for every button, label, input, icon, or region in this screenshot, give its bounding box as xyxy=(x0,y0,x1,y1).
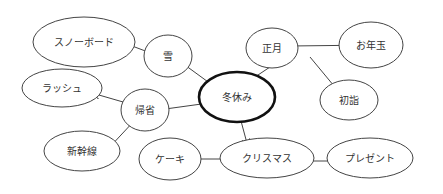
nodes-layer: 冬休み雪スノーボード正月お年玉初詣ラッシュ帰省新幹線ケーキクリスマスプレゼント xyxy=(22,17,413,180)
node-label: お年玉 xyxy=(356,39,386,51)
node-label: 新幹線 xyxy=(67,145,97,157)
node-label: 雪 xyxy=(163,51,173,62)
node-label: プレゼント xyxy=(345,153,395,164)
node-yuki: 雪 xyxy=(144,35,192,77)
node-shogatsu: 正月 xyxy=(246,28,298,68)
node-label: ラッシュ xyxy=(42,83,82,94)
node-rush: ラッシュ xyxy=(22,69,102,107)
node-otoshidama: お年玉 xyxy=(339,22,403,68)
node-christmas: クリスマス xyxy=(220,138,314,178)
node-label: 初詣 xyxy=(339,94,359,106)
node-label: スノーボード xyxy=(54,37,114,48)
node-label: クリスマス xyxy=(242,153,292,164)
node-present: プレゼント xyxy=(327,138,413,178)
node-cake: ケーキ xyxy=(139,138,201,180)
node-hatsumode: 初詣 xyxy=(320,80,378,120)
node-shinkansen: 新幹線 xyxy=(44,131,120,171)
node-label: 正月 xyxy=(262,43,282,54)
node-label: ケーキ xyxy=(155,154,185,165)
node-label: 冬休み xyxy=(222,91,252,103)
node-kisei: 帰省 xyxy=(121,89,169,131)
node-snowboard: スノーボード xyxy=(33,17,135,67)
mind-map-diagram: 冬休み雪スノーボード正月お年玉初詣ラッシュ帰省新幹線ケーキクリスマスプレゼント xyxy=(0,0,443,194)
node-fuyuyasumi: 冬休み xyxy=(199,72,275,122)
node-label: 帰省 xyxy=(135,104,155,116)
